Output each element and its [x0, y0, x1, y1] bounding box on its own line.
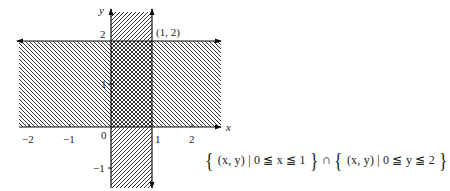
- intersection-symbol: ∩: [322, 152, 332, 168]
- set-y-condition: (x, y) | 0 ≦ y ≦ 2: [345, 153, 437, 168]
- y-tick-label: 2: [100, 28, 106, 40]
- y-tick-label: −1: [93, 162, 105, 174]
- point-label: (1, 2): [156, 26, 180, 39]
- left-brace: {: [205, 152, 214, 168]
- x-tick-label: −2: [22, 133, 34, 145]
- set-formula: { (x, y) | 0 ≦ x ≦ 1 } ∩ { (x, y) | 0 ≦ …: [203, 152, 450, 168]
- left-brace: {: [334, 152, 343, 168]
- x-axis-label: x: [225, 121, 231, 133]
- x-tick-label: 1: [155, 133, 161, 145]
- y-tick-label: 1: [101, 78, 107, 90]
- right-brace: }: [439, 152, 448, 168]
- x-tick-label: 2: [189, 133, 195, 145]
- y-axis-label: y: [98, 4, 104, 16]
- x-tick-label: −1: [63, 133, 75, 145]
- vertical-strip-region: [111, 12, 152, 188]
- origin-label: 0: [101, 129, 107, 141]
- right-brace: }: [310, 152, 319, 168]
- set-x-condition: (x, y) | 0 ≦ x ≦ 1: [216, 153, 308, 168]
